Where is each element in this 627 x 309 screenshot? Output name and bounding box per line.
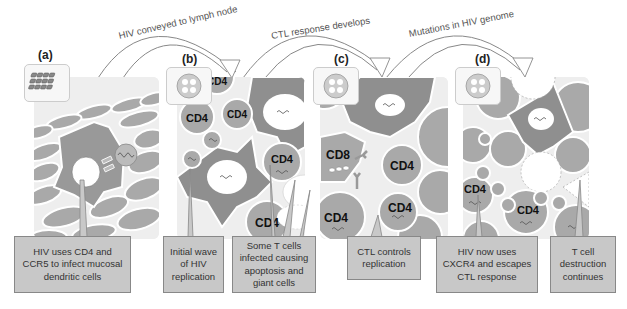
- cd4-label: CD4: [271, 153, 294, 165]
- cd4-label: CD4: [464, 183, 487, 195]
- callout-a: HIV uses CD4 and CCR5 to infect mucosal …: [14, 236, 131, 293]
- thumbnail-a: [24, 64, 70, 102]
- panel-letter-a: (a): [38, 48, 53, 62]
- cd4-label: CD4: [517, 204, 540, 216]
- cd4-label: CD4: [186, 112, 209, 124]
- panel-letter-c: (c): [334, 52, 349, 66]
- epithelium-icon: [25, 65, 69, 101]
- cd8-label: CD8: [326, 148, 350, 162]
- dendritic-cell-nucleus: [72, 157, 100, 187]
- panel-letter-b: (b): [182, 52, 197, 66]
- thumbnail-d: [455, 67, 501, 105]
- thumbnail-b: [166, 67, 212, 105]
- lymph-node-icon: [167, 68, 211, 104]
- cd4-label: CD4: [255, 216, 279, 230]
- callout-d2: T cell destruction continues: [550, 236, 616, 293]
- cd4-label: CD4: [388, 201, 412, 215]
- callout-d1: HIV now uses CXCR4 and escapes CTL respo…: [436, 236, 538, 293]
- cd4-label: CD4: [227, 109, 247, 120]
- panel-letter-d: (d): [475, 52, 490, 66]
- callout-b1: Initial wave of HIV replication: [163, 236, 224, 293]
- callout-b2: Some T cells infected causing apoptosis …: [232, 236, 316, 293]
- callout-c: CTL controls replication: [347, 236, 421, 280]
- lymph-node-icon: [456, 68, 500, 104]
- thumbnail-c: [313, 67, 359, 105]
- cd4-label: CD4: [390, 159, 414, 173]
- cd4-label: CD4: [324, 211, 348, 225]
- lymph-node-icon: [314, 68, 358, 104]
